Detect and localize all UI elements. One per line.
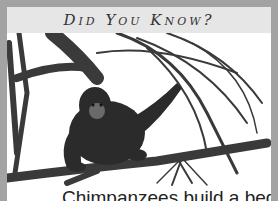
card-header: Did You Know? <box>7 7 271 33</box>
did-you-know-card: Did You Know? <box>7 7 271 201</box>
fact-caption: Chimpanzees build a bed for <box>62 187 271 201</box>
chimpanzee-illustration <box>7 33 271 187</box>
card-title: Did You Know? <box>63 11 214 29</box>
chimpanzee-drawing-icon <box>7 33 271 187</box>
